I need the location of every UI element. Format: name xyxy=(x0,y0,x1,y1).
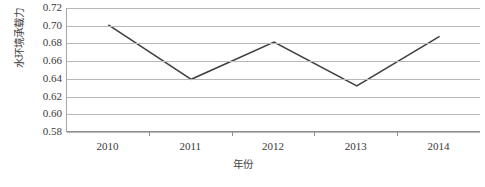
x-axis-tick-label: 2014 xyxy=(404,139,474,153)
gridline xyxy=(67,26,480,27)
x-axis-line xyxy=(66,131,480,132)
y-axis-tick-label: 0.68 xyxy=(22,37,62,48)
gridline xyxy=(67,132,480,133)
y-axis-tick-label: 0.58 xyxy=(22,126,62,137)
y-axis-tick-labels: 0.720.700.680.660.640.620.600.58 xyxy=(22,8,62,132)
x-axis-title: 年份 xyxy=(0,157,485,171)
y-axis-tick-label: 0.64 xyxy=(22,73,62,84)
x-axis-tick-label: 2010 xyxy=(72,139,142,153)
y-axis-tick-label: 0.62 xyxy=(22,91,62,102)
x-axis-tick-mark xyxy=(314,132,315,136)
x-axis-tick-mark xyxy=(232,132,233,136)
y-axis-tick-label: 0.60 xyxy=(22,108,62,119)
x-axis-tick-mark xyxy=(397,132,398,136)
gridline xyxy=(67,79,480,80)
x-axis-tick-label: 2011 xyxy=(155,139,225,153)
x-axis-tick-label: 2012 xyxy=(238,139,308,153)
gridline xyxy=(67,43,480,44)
x-axis-tick-labels: 20102011201220132014 xyxy=(66,139,480,155)
plot-area xyxy=(66,8,480,132)
gridline xyxy=(67,61,480,62)
x-axis-tick-mark xyxy=(149,132,150,136)
y-axis-tick-label: 0.66 xyxy=(22,55,62,66)
y-axis-tick-label: 0.70 xyxy=(22,20,62,31)
gridline xyxy=(67,97,480,98)
y-axis-tick-label: 0.72 xyxy=(22,2,62,13)
line-chart: 水环境承载力 0.720.700.680.660.640.620.600.58 … xyxy=(0,0,485,187)
gridline xyxy=(67,8,480,9)
x-axis-tick-label: 2013 xyxy=(321,139,391,153)
gridline xyxy=(67,114,480,115)
